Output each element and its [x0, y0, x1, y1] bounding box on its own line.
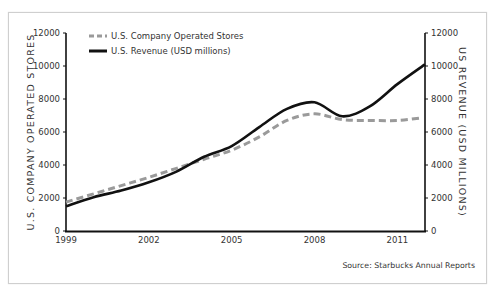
- x-tick-label: 2011: [387, 235, 409, 245]
- right-tick-label: 0: [431, 226, 436, 236]
- left-axis-title: U.S. COMPANY OPERATED STORES: [25, 34, 36, 231]
- left-tick-label: 8000: [38, 94, 60, 104]
- right-tick-labels: 020004000600080001000012000: [425, 28, 458, 236]
- right-tick-label: 10000: [431, 61, 458, 71]
- series-layer: [66, 64, 425, 206]
- left-tick-label: 10000: [33, 61, 60, 71]
- legend-item-stores: U.S. Company Operated Stores: [89, 31, 244, 41]
- right-tick-label: 6000: [431, 127, 453, 137]
- legend-label-stores: U.S. Company Operated Stores: [111, 31, 244, 41]
- series-stores-line: [66, 114, 421, 202]
- right-tick-label: 8000: [431, 94, 453, 104]
- x-tick-label: 2002: [138, 235, 160, 245]
- x-tick-label: 1999: [55, 235, 77, 245]
- x-tick-labels: 19992002200520082011: [55, 235, 408, 245]
- right-tick-label: 4000: [431, 160, 453, 170]
- left-tick-label: 4000: [38, 160, 60, 170]
- legend-item-revenue: U.S. Revenue (USD millions): [89, 46, 231, 56]
- source-note: Source: Starbucks Annual Reports: [342, 261, 475, 270]
- right-tick-label: 12000: [431, 28, 458, 38]
- right-tick-label: 2000: [431, 193, 453, 203]
- line-chart: 020004000600080001000012000 020004000600…: [0, 0, 492, 293]
- legend-label-revenue: U.S. Revenue (USD millions): [111, 46, 231, 56]
- legend: U.S. Company Operated Stores U.S. Revenu…: [89, 31, 244, 56]
- left-tick-labels: 020004000600080001000012000: [33, 28, 66, 236]
- left-tick-label: 2000: [38, 193, 60, 203]
- left-tick-label: 6000: [38, 127, 60, 137]
- x-tick-label: 2008: [304, 235, 326, 245]
- left-tick-label: 12000: [33, 28, 60, 38]
- x-tick-label: 2005: [221, 235, 243, 245]
- right-axis-title: US REVENUE (USD MILLIONS): [457, 47, 468, 217]
